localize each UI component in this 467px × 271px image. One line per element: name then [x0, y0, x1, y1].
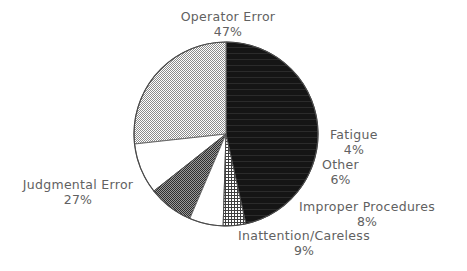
- pie-label-judgmental-error: Judgmental Error 27%: [23, 178, 134, 207]
- pie-label-operator-error-name: Operator Error: [181, 9, 276, 24]
- pie-label-fatigue: Fatigue 4%: [330, 128, 378, 157]
- pie-label-inattention-careless: Inattention/Careless 9%: [238, 229, 370, 258]
- pie-label-fatigue-name: Fatigue: [330, 127, 378, 142]
- pie-label-operator-error-value: 47%: [181, 25, 276, 40]
- pie-label-operator-error: Operator Error 47%: [181, 10, 276, 39]
- pie-chart: Operator Error 47% Fatigue 4% Other 6% I…: [0, 0, 467, 271]
- pie-label-improper-procedures-value: 8%: [299, 215, 435, 230]
- pie-label-other-value: 6%: [322, 173, 359, 188]
- pie-chart-svg: [0, 0, 467, 271]
- pie-label-judgmental-error-name: Judgmental Error: [23, 177, 134, 192]
- pie-label-fatigue-value: 4%: [330, 143, 378, 158]
- pie-label-improper-procedures-name: Improper Procedures: [299, 199, 435, 214]
- pie-slices: [134, 42, 318, 226]
- pie-label-inattention-careless-value: 9%: [238, 244, 370, 259]
- pie-label-improper-procedures: Improper Procedures 8%: [299, 200, 435, 229]
- pie-label-other-name: Other: [322, 157, 359, 172]
- pie-label-other: Other 6%: [322, 158, 359, 187]
- pie-label-judgmental-error-value: 27%: [23, 193, 134, 208]
- pie-slice-judgmental-error: [134, 42, 226, 144]
- pie-label-inattention-careless-name: Inattention/Careless: [238, 228, 370, 243]
